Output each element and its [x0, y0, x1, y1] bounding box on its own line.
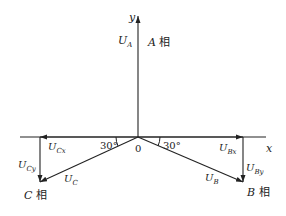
- ucx-label: UCx: [48, 141, 66, 155]
- phase-c-label: C 相: [24, 189, 47, 202]
- phase-b-label: B 相: [246, 186, 270, 199]
- x-axis-label: x: [266, 142, 273, 155]
- ub-label: UB: [205, 172, 219, 186]
- angle-arc-right: [158, 137, 160, 146]
- phasor-diagram: y x 0 UA A 相 UCx UCy UC C 相 30° 30° UBx …: [0, 0, 286, 216]
- ucy-label: UCy: [18, 159, 37, 173]
- phase-a-label: A 相: [147, 36, 170, 49]
- angle-right-label: 30°: [163, 140, 181, 151]
- angle-left-label: 30°: [100, 140, 118, 151]
- ubx-label: UBx: [219, 142, 237, 156]
- uby-label: UBy: [246, 162, 265, 176]
- ua-label: UA: [118, 34, 132, 49]
- origin-label: 0: [135, 143, 141, 154]
- uc-label: UC: [64, 173, 78, 187]
- y-axis-label: y: [128, 11, 136, 24]
